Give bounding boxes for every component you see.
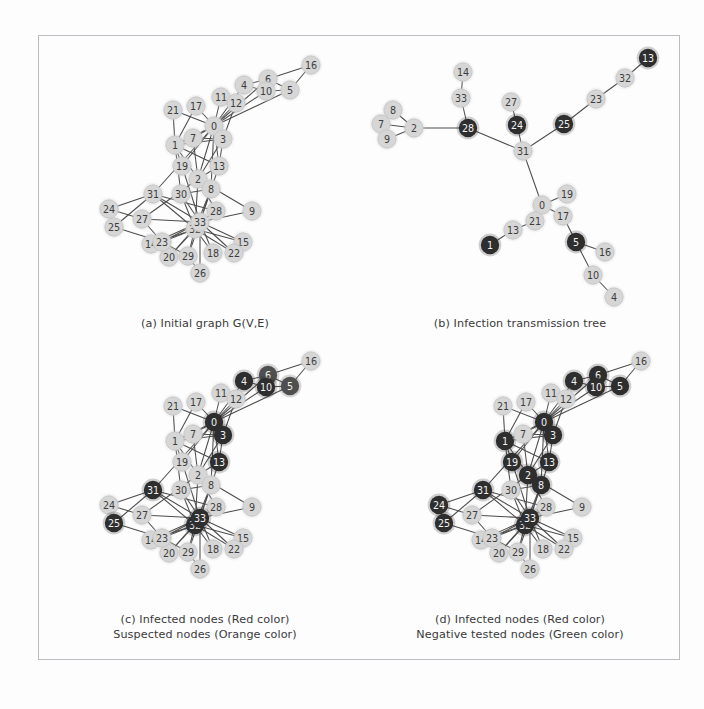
graph-b-node-label-23: 23 [590,94,602,105]
graph-d-node-label-4: 4 [571,376,577,387]
graph-b-node-label-33: 33 [455,93,467,104]
graph-d-node-label-30: 30 [505,485,517,496]
graph-d-node-label-16: 16 [635,356,647,367]
graph-d-node-label-29: 29 [512,547,524,558]
graph-c-node-label-29: 29 [182,547,194,558]
graph-b-nodes: 0124578910131416171921232425272831323313 [370,47,660,309]
graph-d-nodes: 0123456789101112131415161718192021222324… [428,350,653,581]
graph-d-node-label-24: 24 [433,500,445,511]
panel-b-transmission-tree: 0124578910131416171921232425272831323313 [0,0,704,330]
graph-d-node-label-13: 13 [543,457,555,468]
graph-b-node-label-14: 14 [457,67,469,78]
graph-c-node-label-21: 21 [167,401,179,412]
graph-c-node-label-20: 20 [163,548,175,559]
graph-c-node-label-7: 7 [190,429,196,440]
graph-c-node-label-9: 9 [249,502,255,513]
graph-c-node-label-5: 5 [287,381,293,392]
graph-d-svg: 0123456789101112131415161718192021222324… [368,331,698,621]
graph-d-node-label-9: 9 [579,502,585,513]
caption-panel-d: (d) Infected nodes (Red color) Negative … [370,612,670,642]
graph-d-node-label-27: 27 [466,510,478,521]
graph-d-node-label-31: 31 [477,485,489,496]
graph-b-node-label-17: 17 [557,211,569,222]
graph-c-node-label-4: 4 [241,376,247,387]
graph-d-node-label-8: 8 [538,480,544,491]
panel-d-infected-negative: 0123456789101112131415161718192021222324… [368,331,698,621]
graph-c-node-label-25: 25 [108,518,120,529]
graph-b-node-label-16: 16 [599,247,611,258]
graph-d-node-label-23: 23 [486,533,498,544]
graph-b-node-label-28: 28 [462,123,474,134]
graph-c-node-label-10: 10 [260,382,272,393]
graph-b-node-label-31: 31 [517,146,529,157]
graph-b-node-label-25: 25 [558,119,570,130]
graph-d-node-label-22: 22 [558,544,570,555]
graph-c-node-label-3: 3 [220,430,226,441]
figure-page: 0123456789101112131415161718192021222324… [0,0,704,709]
graph-c-node-label-28: 28 [210,502,222,513]
graph-b-node-label-21: 21 [529,216,541,227]
graph-d-node-label-26: 26 [524,564,536,575]
graph-c-node-label-12: 12 [230,394,242,405]
graph-b-node-label-27: 27 [505,97,517,108]
graph-c-svg: 0123456789101112131415161718192021222324… [38,331,368,621]
graph-c-node-label-26: 26 [194,564,206,575]
graph-c-node-label-27: 27 [136,510,148,521]
caption-panel-c: (c) Infected nodes (Red color) Suspected… [50,612,360,642]
graph-d-node-label-21: 21 [497,401,509,412]
graph-d-node-label-19: 19 [506,457,518,468]
graph-c-node-label-24: 24 [103,500,115,511]
graph-c-node-label-23: 23 [156,533,168,544]
graph-c-node-label-16: 16 [305,356,317,367]
graph-b-node-label-4: 4 [611,292,617,303]
graph-c-node-label-1: 1 [172,436,178,447]
graph-c-node-label-13: 13 [213,457,225,468]
caption-panel-b: (b) Infection transmission tree [370,316,670,331]
graph-b-node-label-1: 1 [487,240,493,251]
graph-c-node-label-2: 2 [195,470,201,481]
graph-d-node-label-17: 17 [520,397,532,408]
graph-b-node-label-13t: 13 [642,53,654,64]
graph-d-node-label-12: 12 [560,394,572,405]
graph-b-node-label-19: 19 [561,189,573,200]
graph-c-node-label-30: 30 [175,485,187,496]
graph-b-node-label-10: 10 [587,270,599,281]
graph-d-node-label-3: 3 [550,430,556,441]
graph-c-node-label-17: 17 [190,397,202,408]
graph-d-node-label-33: 33 [524,513,536,524]
graph-b-node-label-5: 5 [573,237,579,248]
graph-b-node-label-9: 9 [384,134,390,145]
graph-d-node-label-10: 10 [590,382,602,393]
graph-d-node-label-20: 20 [493,548,505,559]
graph-c-node-label-8: 8 [208,480,214,491]
graph-b-node-label-13: 13 [507,225,519,236]
graph-b-node-label-24: 24 [511,120,523,131]
graph-d-node-label-18: 18 [537,544,549,555]
panel-c-infected-suspected: 0123456789101112131415161718192021222324… [38,331,368,621]
graph-d-node-label-7: 7 [520,429,526,440]
graph-c-node-label-33: 33 [194,513,206,524]
graph-b-node-label-8: 8 [390,105,396,116]
graph-b-node-label-0: 0 [539,200,545,211]
graph-b-node-label-2: 2 [411,123,417,134]
graph-c-node-label-31: 31 [147,485,159,496]
graph-c-node-label-22: 22 [228,544,240,555]
graph-c-nodes: 0123456789101112131415161718192021222324… [98,350,323,581]
graph-c-node-label-19: 19 [176,457,188,468]
graph-d-node-label-2: 2 [525,470,531,481]
graph-b-svg: 0124578910131416171921232425272831323313 [0,0,704,330]
graph-d-node-label-28: 28 [540,502,552,513]
graph-c-node-label-18: 18 [207,544,219,555]
graph-d-node-label-5: 5 [617,381,623,392]
graph-d-node-label-1: 1 [502,436,508,447]
graph-b-node-label-32: 32 [619,73,631,84]
graph-d-node-label-25: 25 [438,518,450,529]
caption-panel-a: (a) Initial graph G(V,E) [50,316,360,331]
